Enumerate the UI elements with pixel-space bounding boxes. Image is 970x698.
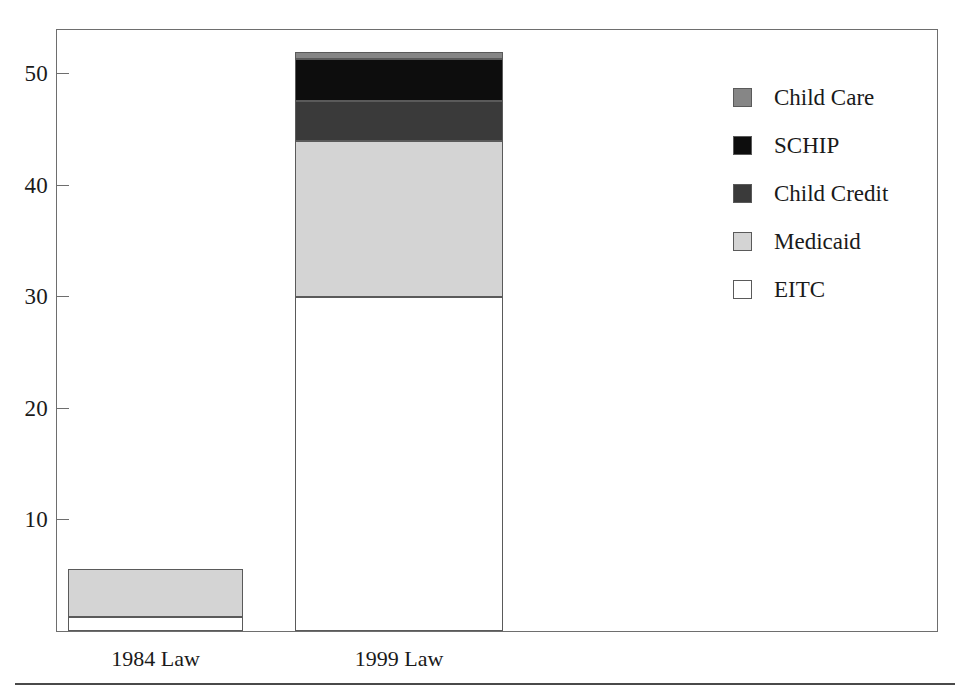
- footer-rule: [15, 683, 955, 685]
- y-axis-tick-label: 50: [2, 62, 48, 85]
- stacked-bar-chart-figure: 5040302010 1984 Law1999 Law Child CareSC…: [0, 0, 970, 698]
- y-axis-tick-label: 40: [2, 174, 48, 197]
- bar-segment-eitc: [68, 617, 243, 631]
- legend-swatch-icon: [733, 280, 752, 299]
- bar-segment-schip: [295, 59, 503, 100]
- legend-item-medicaid[interactable]: Medicaid: [733, 228, 861, 254]
- bar-segment-medicaid: [68, 569, 243, 617]
- legend-swatch-icon: [733, 232, 752, 251]
- legend-label: Medicaid: [774, 230, 861, 253]
- legend-item-child-credit[interactable]: Child Credit: [733, 180, 888, 206]
- legend-label: EITC: [774, 278, 825, 301]
- y-axis-tick-label: 20: [2, 397, 48, 420]
- y-axis-tick-label: 30: [2, 285, 48, 308]
- category-label: 1999 Law: [295, 647, 503, 671]
- y-axis-tick: [56, 408, 69, 409]
- legend-item-schip[interactable]: SCHIP: [733, 132, 839, 158]
- bar-segment-child-credit: [295, 101, 503, 141]
- bar-segment-medicaid: [295, 141, 503, 297]
- y-axis-tick: [56, 519, 69, 520]
- legend-item-eitc[interactable]: EITC: [733, 276, 825, 302]
- y-axis-labels: 5040302010: [0, 0, 48, 698]
- y-axis-tick: [56, 296, 69, 297]
- legend-swatch-icon: [733, 184, 752, 203]
- legend-swatch-icon: [733, 88, 752, 107]
- y-axis-tick-label: 10: [2, 508, 48, 531]
- stacked-bar: [295, 52, 503, 632]
- stacked-bar: [68, 569, 243, 631]
- legend-item-child-care[interactable]: Child Care: [733, 84, 874, 110]
- y-axis-tick: [56, 185, 69, 186]
- bar-segment-child-care: [295, 52, 503, 60]
- legend-label: Child Credit: [774, 182, 888, 205]
- legend-swatch-icon: [733, 136, 752, 155]
- legend-label: Child Care: [774, 86, 874, 109]
- y-axis-tick: [56, 73, 69, 74]
- category-label: 1984 Law: [68, 647, 243, 671]
- bar-segment-eitc: [295, 297, 503, 632]
- legend-label: SCHIP: [774, 134, 839, 157]
